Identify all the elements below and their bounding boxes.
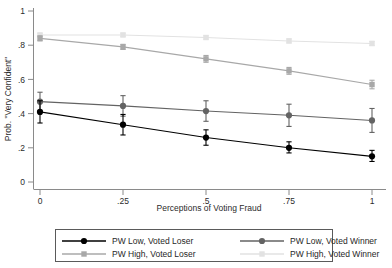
data-point-marker <box>369 117 375 123</box>
data-point-marker <box>37 36 42 41</box>
legend-item-pw-low-voted-winner[interactable]: PW Low, Voted Winner <box>240 236 377 246</box>
legend-marker-swatch <box>81 251 86 256</box>
data-point-marker <box>120 122 126 128</box>
y-tick-label: .2 <box>18 143 25 153</box>
data-point-marker <box>369 82 374 87</box>
legend-item-pw-low-voted-loser[interactable]: PW Low, Voted Loser <box>62 236 193 246</box>
y-tick-label: .8 <box>18 40 25 50</box>
y-tick-label: .6 <box>18 75 25 85</box>
y-tick-label: 0 <box>20 177 25 187</box>
data-point-marker <box>203 35 208 40</box>
chart-figure: 0.2.4.6.81 0.25.5.751 Perceptions of Vot… <box>0 0 392 268</box>
legend-item-pw-high-voted-winner[interactable]: PW High, Voted Winner <box>240 249 379 259</box>
legend-marker-swatch <box>259 251 264 256</box>
y-axis-ticks: 0.2.4.6.81 <box>18 6 34 187</box>
x-tick-label: 1 <box>370 196 375 206</box>
legend-label: PW Low, Voted Loser <box>112 236 193 246</box>
y-tick-label: 1 <box>20 6 25 16</box>
data-point-marker <box>120 103 126 109</box>
x-tick-label: 0 <box>38 196 43 206</box>
x-tick-label: .75 <box>283 196 295 206</box>
data-point-marker <box>286 68 291 73</box>
data-point-marker <box>203 134 209 140</box>
data-series-layer <box>37 32 375 161</box>
chart-legend: PW Low, Voted LoserPW Low, Voted WinnerP… <box>56 230 380 262</box>
data-point-marker <box>37 109 43 115</box>
y-axis-title: Prob. "Very Confident" <box>3 57 13 141</box>
data-point-marker <box>286 38 291 43</box>
series-pw-high-voted-loser <box>37 36 374 89</box>
data-point-marker <box>286 112 292 118</box>
legend-marker-swatch <box>81 238 87 244</box>
data-point-marker <box>120 32 125 37</box>
data-point-marker <box>369 153 375 159</box>
series-pw-high-voted-winner <box>37 32 374 46</box>
data-point-marker <box>369 41 374 46</box>
legend-marker-swatch <box>259 238 265 244</box>
y-tick-label: .4 <box>18 109 25 119</box>
data-point-marker <box>120 44 125 49</box>
legend-item-pw-high-voted-loser[interactable]: PW High, Voted Loser <box>62 249 196 259</box>
series-pw-low-voted-winner <box>37 92 375 132</box>
data-point-marker <box>203 56 208 61</box>
x-tick-label: .25 <box>117 196 129 206</box>
x-axis-title: Perceptions of Voting Fraud <box>157 203 262 213</box>
data-point-marker <box>203 108 209 114</box>
legend-label: PW Low, Voted Winner <box>290 236 377 246</box>
prob-very-confident-line-chart: 0.2.4.6.81 0.25.5.751 Perceptions of Vot… <box>0 0 392 268</box>
legend-label: PW High, Voted Loser <box>112 249 196 259</box>
legend-label: PW High, Voted Winner <box>290 249 379 259</box>
data-point-marker <box>286 145 292 151</box>
